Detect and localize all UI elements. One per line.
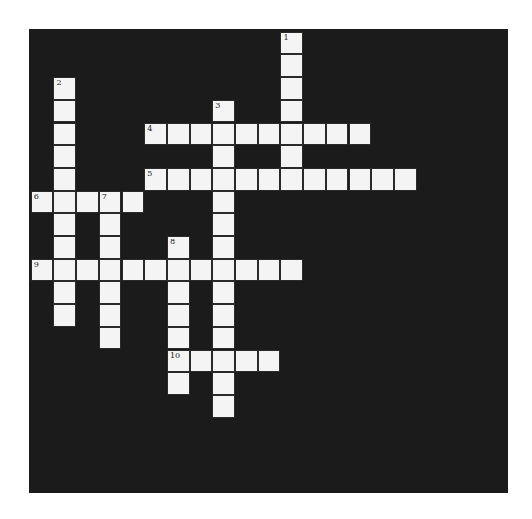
- crossword-cell[interactable]: [212, 350, 235, 373]
- clue-number: 2: [56, 78, 61, 87]
- crossword-cell[interactable]: [280, 168, 303, 191]
- clue-number: 6: [34, 192, 39, 201]
- crossword-cell[interactable]: 5: [144, 168, 167, 191]
- crossword-cell[interactable]: [99, 213, 122, 236]
- crossword-cell[interactable]: [280, 54, 303, 77]
- crossword-cell[interactable]: [53, 191, 76, 214]
- crossword-cell[interactable]: [53, 304, 76, 327]
- crossword-cell[interactable]: [303, 168, 326, 191]
- clue-number: 7: [102, 192, 107, 201]
- crossword-cell[interactable]: [167, 168, 190, 191]
- crossword-cell[interactable]: [235, 168, 258, 191]
- crossword-cell[interactable]: 9: [31, 259, 54, 282]
- crossword-cell[interactable]: 2: [53, 77, 76, 100]
- clue-number: 5: [147, 169, 152, 178]
- crossword-cell[interactable]: [167, 372, 190, 395]
- crossword-cell[interactable]: [280, 259, 303, 282]
- crossword-cell[interactable]: [280, 77, 303, 100]
- crossword-cell[interactable]: [235, 350, 258, 373]
- crossword-cell[interactable]: [53, 123, 76, 146]
- crossword-cell[interactable]: 10: [167, 350, 190, 373]
- crossword-board: 12345678109: [29, 29, 508, 493]
- crossword-cell[interactable]: [280, 145, 303, 168]
- crossword-cell[interactable]: [167, 304, 190, 327]
- crossword-cell[interactable]: [99, 236, 122, 259]
- clue-number: 9: [34, 260, 39, 269]
- crossword-cell[interactable]: [53, 281, 76, 304]
- crossword-cell[interactable]: [53, 168, 76, 191]
- crossword-cell[interactable]: [212, 236, 235, 259]
- crossword-cell[interactable]: [190, 168, 213, 191]
- crossword-cell[interactable]: [76, 191, 99, 214]
- crossword-cell[interactable]: 1: [280, 32, 303, 55]
- crossword-cell[interactable]: [235, 123, 258, 146]
- crossword-cell[interactable]: [99, 259, 122, 282]
- crossword-cell[interactable]: [212, 168, 235, 191]
- crossword-cell[interactable]: [349, 168, 372, 191]
- crossword-cell[interactable]: [212, 281, 235, 304]
- crossword-cell[interactable]: [190, 259, 213, 282]
- crossword-cell[interactable]: [212, 372, 235, 395]
- crossword-cell[interactable]: [53, 145, 76, 168]
- crossword-cell[interactable]: [280, 100, 303, 123]
- crossword-cell[interactable]: [99, 304, 122, 327]
- crossword-cell[interactable]: 8: [167, 236, 190, 259]
- crossword-cell[interactable]: [122, 259, 145, 282]
- crossword-cell[interactable]: [212, 395, 235, 418]
- crossword-cell[interactable]: [258, 350, 281, 373]
- crossword-cell[interactable]: [258, 123, 281, 146]
- crossword-cell[interactable]: [212, 123, 235, 146]
- crossword-cell[interactable]: [53, 236, 76, 259]
- clue-number: 10: [170, 351, 180, 360]
- clue-number: 8: [170, 237, 175, 246]
- crossword-cell[interactable]: 4: [144, 123, 167, 146]
- crossword-cell[interactable]: [212, 304, 235, 327]
- crossword-cell[interactable]: [235, 259, 258, 282]
- crossword-cell[interactable]: [53, 259, 76, 282]
- crossword-cell[interactable]: 3: [212, 100, 235, 123]
- crossword-cell[interactable]: [144, 259, 167, 282]
- crossword-cell[interactable]: [190, 350, 213, 373]
- crossword-cell[interactable]: [190, 123, 213, 146]
- crossword-cell[interactable]: [303, 123, 326, 146]
- crossword-cell[interactable]: [394, 168, 417, 191]
- clue-number: 1: [283, 33, 288, 42]
- crossword-cell[interactable]: [122, 191, 145, 214]
- crossword-cell[interactable]: [280, 123, 303, 146]
- crossword-cell[interactable]: [212, 213, 235, 236]
- crossword-cell[interactable]: 7: [99, 191, 122, 214]
- crossword-cell[interactable]: [76, 259, 99, 282]
- crossword-cell[interactable]: [371, 168, 394, 191]
- clue-number: 3: [215, 101, 220, 110]
- crossword-cell[interactable]: [167, 259, 190, 282]
- crossword-cell[interactable]: [212, 145, 235, 168]
- crossword-cell[interactable]: [53, 213, 76, 236]
- crossword-cell[interactable]: [349, 123, 372, 146]
- crossword-cell[interactable]: [258, 259, 281, 282]
- crossword-cell[interactable]: [212, 259, 235, 282]
- crossword-cell[interactable]: [167, 123, 190, 146]
- crossword-cell[interactable]: [53, 100, 76, 123]
- crossword-cell[interactable]: [326, 168, 349, 191]
- crossword-cell[interactable]: [212, 191, 235, 214]
- crossword-cell[interactable]: 6: [31, 191, 54, 214]
- crossword-cell[interactable]: [326, 123, 349, 146]
- crossword-cell[interactable]: [258, 168, 281, 191]
- clue-number: 4: [147, 124, 152, 133]
- crossword-cell[interactable]: [167, 327, 190, 350]
- crossword-cell[interactable]: [99, 327, 122, 350]
- crossword-cell[interactable]: [212, 327, 235, 350]
- crossword-cell[interactable]: [167, 281, 190, 304]
- crossword-cell[interactable]: [99, 281, 122, 304]
